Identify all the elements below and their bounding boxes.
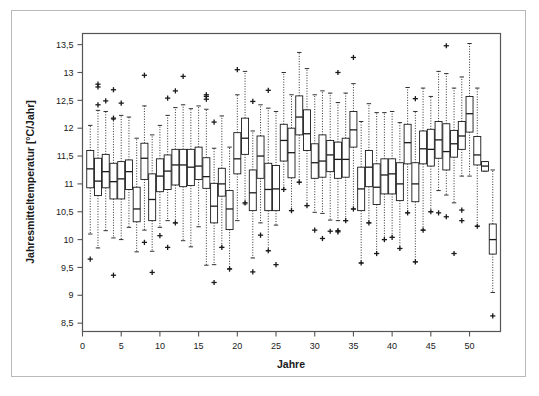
x-axis-ticks: 05101520253035404550: [80, 332, 475, 351]
y-tick-label: 13,5: [56, 40, 74, 50]
boxplot-chart: 8,599,51010,51111,51212,51313,5 05101520…: [0, 0, 539, 396]
box-iqr: [443, 124, 450, 170]
box-iqr: [311, 144, 318, 179]
box-iqr: [381, 159, 388, 194]
boxplot-group: [482, 162, 489, 171]
box-iqr: [303, 110, 310, 151]
y-tick-label: 12: [63, 123, 73, 133]
y-tick-label: 12,5: [56, 96, 74, 106]
box-iqr: [203, 158, 210, 189]
x-tick-label: 40: [387, 341, 397, 351]
box-iqr: [149, 174, 156, 221]
box-iqr: [404, 124, 411, 164]
box-iqr: [265, 163, 272, 210]
box-iqr: [180, 149, 187, 186]
x-tick-label: 0: [80, 341, 85, 351]
y-tick-label: 9,5: [61, 263, 74, 273]
x-axis-title: Jahre: [277, 358, 305, 370]
box-iqr: [242, 118, 249, 154]
box-iqr: [195, 147, 202, 179]
box-iqr: [234, 133, 241, 174]
box-iqr: [327, 140, 334, 171]
y-tick-label: 10,5: [56, 207, 74, 217]
box-iqr: [211, 183, 218, 223]
x-tick-label: 50: [465, 341, 475, 351]
y-tick-label: 13: [63, 68, 73, 78]
box-iqr: [396, 163, 403, 201]
box-iqr: [118, 162, 125, 199]
box-iqr: [474, 137, 481, 165]
box-iqr: [164, 155, 171, 190]
box-iqr: [218, 168, 225, 196]
axes-spines: [83, 34, 501, 332]
x-tick-label: 25: [271, 341, 281, 351]
box-iqr: [257, 136, 264, 178]
box-iqr: [334, 142, 341, 178]
figure-canvas: 8,599,51010,51111,51212,51313,5 05101520…: [0, 0, 539, 396]
plot-area-frame: [83, 34, 501, 332]
x-tick-label: 15: [194, 341, 204, 351]
box-iqr: [342, 138, 349, 177]
box-iqr: [427, 129, 434, 166]
x-tick-label: 20: [232, 341, 242, 351]
y-tick-label: 8,5: [61, 318, 74, 328]
box-iqr: [296, 96, 303, 135]
box-iqr: [156, 159, 163, 192]
x-tick-label: 35: [348, 341, 358, 351]
box-iqr: [319, 135, 326, 177]
box-iqr: [125, 160, 132, 190]
box-iqr: [141, 143, 148, 179]
box-iqr: [133, 187, 140, 222]
y-axis-ticks: 8,599,51010,51111,51212,51313,5: [56, 40, 83, 329]
x-tick-label: 10: [155, 341, 165, 351]
box-iqr: [280, 124, 287, 161]
box-iqr: [273, 166, 280, 211]
box-iqr: [365, 150, 372, 186]
y-tick-label: 11: [64, 179, 73, 189]
y-tick-label: 11,5: [57, 151, 74, 161]
x-tick-label: 30: [310, 341, 320, 351]
y-axis-title: Jahresmitteltemperatur [°C/Jahr]: [24, 100, 36, 264]
box-iqr: [94, 158, 101, 195]
box-iqr: [172, 149, 179, 185]
box-iqr: [412, 163, 419, 202]
y-tick-label: 10: [63, 235, 73, 245]
y-tick-label: 9: [68, 290, 73, 300]
box-iqr: [249, 170, 256, 211]
box-iqr: [420, 131, 427, 164]
box-iqr: [373, 164, 380, 205]
box-iqr: [226, 191, 233, 230]
x-tick-label: 5: [119, 341, 124, 351]
box-iqr: [389, 159, 396, 194]
x-tick-label: 45: [426, 341, 436, 351]
